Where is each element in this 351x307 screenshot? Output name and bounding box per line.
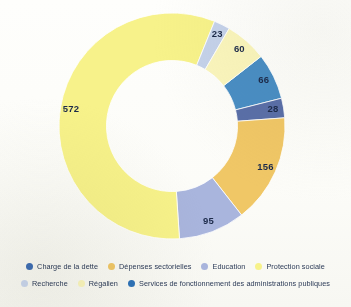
slice-value-label: 28 xyxy=(267,103,278,114)
legend-item-label: Recherche xyxy=(32,279,68,288)
legend-item[interactable]: Dépenses sectorielles xyxy=(108,262,191,271)
slice-value-label: 66 xyxy=(258,74,269,85)
legend-item[interactable]: Protection sociale xyxy=(255,262,325,271)
legend-item-label: Services de fonctionnement des administr… xyxy=(139,279,330,288)
legend-item[interactable]: Charge de la dette xyxy=(26,262,98,271)
chart-page: 6628156955722360 Charge de la detteDépen… xyxy=(0,0,351,307)
legend-swatch-icon xyxy=(26,263,33,270)
legend-row-2: RechercheRégalienServices de fonctionnem… xyxy=(0,275,351,292)
slice-value-label: 60 xyxy=(234,43,245,54)
legend-item-label: Education xyxy=(212,262,245,271)
legend-item-label: Dépenses sectorielles xyxy=(119,262,191,271)
legend-swatch-icon xyxy=(201,263,208,270)
chart-legend: Charge de la detteDépenses sectoriellesE… xyxy=(0,254,351,307)
legend-swatch-icon xyxy=(255,263,262,270)
donut-chart-area: 6628156955722360 xyxy=(0,0,351,252)
legend-item-label: Charge de la dette xyxy=(37,262,98,271)
legend-item[interactable]: Recherche xyxy=(21,279,68,288)
legend-swatch-icon xyxy=(21,280,28,287)
slice-value-label: 95 xyxy=(203,215,214,226)
legend-row-1: Charge de la detteDépenses sectoriellesE… xyxy=(0,258,351,275)
legend-item-label: Protection sociale xyxy=(266,262,325,271)
legend-item-label: Régalien xyxy=(89,279,118,288)
legend-item[interactable]: Services de fonctionnement des administr… xyxy=(128,279,330,288)
legend-item[interactable]: Régalien xyxy=(78,279,118,288)
legend-swatch-icon xyxy=(108,263,115,270)
legend-item[interactable]: Education xyxy=(201,262,245,271)
donut-slices xyxy=(59,13,285,239)
legend-swatch-icon xyxy=(128,280,135,287)
slice-value-label: 156 xyxy=(257,161,273,172)
legend-swatch-icon xyxy=(78,280,85,287)
slice-value-label: 572 xyxy=(63,103,79,114)
slice-value-label: 23 xyxy=(212,28,223,39)
donut-chart: 6628156955722360 xyxy=(52,6,292,246)
